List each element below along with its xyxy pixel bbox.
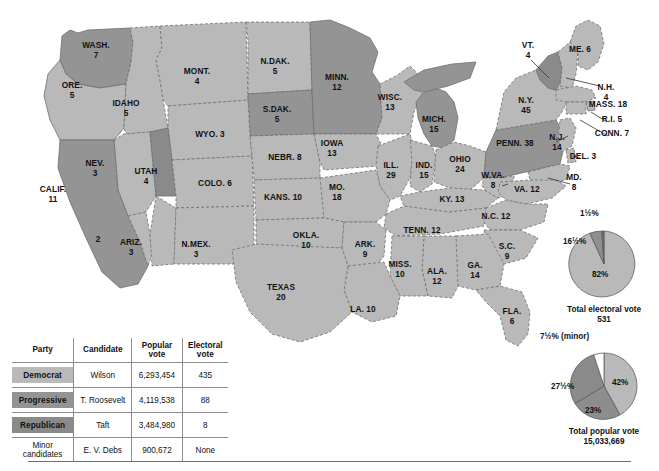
state-name: KANS. 10: [264, 192, 302, 202]
state-label-n-y: N.Y.45: [496, 96, 556, 115]
header-popular-vote: Popularvote: [132, 338, 182, 363]
state-electoral-votes: 15: [419, 170, 428, 180]
state-electoral-votes: 5: [275, 114, 280, 124]
state-electoral-votes: 14: [470, 270, 479, 280]
state-electoral-votes: 12: [332, 82, 341, 92]
state-label-ark: ARK.9: [335, 240, 395, 259]
state-electoral-votes: 5: [273, 66, 278, 76]
state-electoral-votes: 10: [301, 240, 310, 250]
table-row-progressive: Progressive T. Roosevelt 4,119,538 88: [12, 388, 228, 413]
state-name: WISC.: [378, 92, 402, 102]
state-name: CALIF.: [40, 184, 66, 194]
state-electoral-votes: 12: [432, 276, 441, 286]
state-label-fla: FLA.6: [482, 307, 542, 326]
state-label-ga: GA.14: [445, 261, 505, 280]
state-name: DEL. 3: [570, 151, 596, 161]
state-label-mont: MONT.4: [167, 67, 227, 86]
popular-vote-pie-chart: Total popular vote15,033,669: [552, 348, 656, 447]
swatch-label-republican: Republican: [12, 417, 73, 433]
state-name: LA. 10: [350, 304, 376, 314]
state-electoral-votes: 3: [93, 168, 98, 178]
state-label-mich: MICH.15: [404, 115, 464, 134]
table-row-democrat: Democrat Wilson 6,293,454 435: [12, 363, 228, 388]
state-name: S.C.: [499, 241, 516, 251]
legend-label-minor: Minorcandidates: [12, 438, 74, 463]
legend-swatch-republican: Republican: [12, 413, 74, 438]
state-name: IOWA: [321, 138, 344, 148]
electoral-pct-democrat: 82%: [592, 270, 608, 279]
state-electoral-votes: 8: [491, 180, 496, 190]
state-michigan-up: [404, 62, 476, 92]
state-electoral-votes: 14: [552, 142, 561, 152]
cell-popular-wilson: 6,293,454: [132, 363, 182, 388]
state-name: W.VA.: [481, 170, 504, 180]
state-name: N.C. 12: [482, 211, 511, 221]
state-electoral-votes: 3: [194, 249, 199, 259]
state-label-kans-10: KANS. 10: [253, 193, 313, 203]
cell-popular-roosevelt: 4,119,538: [132, 388, 182, 413]
state-name: ALA.: [427, 266, 447, 276]
state-label-conn-7: CONN. 7: [582, 129, 642, 139]
state-label-n-c-12: N.C. 12: [466, 212, 526, 222]
state-name: MONT.: [184, 66, 210, 76]
state-label-calif: CALIF.11: [23, 185, 83, 204]
footer-divider: [28, 461, 631, 462]
state-label-iowa: IOWA13: [302, 139, 362, 158]
state-electoral-votes: 4: [526, 50, 531, 60]
state-name: N.DAK.: [260, 56, 289, 66]
cell-candidate-wilson: Wilson: [74, 363, 132, 388]
popular-pct-progressive: 27½%: [551, 382, 574, 391]
electoral-pct-republican: 1½%: [580, 209, 599, 218]
state-name: MINN.: [325, 72, 349, 82]
state-label-mo: MO.18: [307, 183, 367, 202]
header-electoral-vote: Electoralvote: [182, 338, 228, 363]
cell-electoral-taft: 8: [182, 413, 228, 438]
state-name: VT.: [522, 40, 534, 50]
state-name: ME. 6: [569, 44, 591, 54]
state-label-minn: MINN.12: [307, 73, 367, 92]
state-name: MD.: [566, 172, 582, 182]
state-electoral-votes: 20: [276, 292, 285, 302]
popular-pct-minor: 7½% (minor): [540, 332, 589, 341]
state-electoral-votes: 4: [195, 76, 200, 86]
state-name: WYO. 3: [195, 129, 225, 139]
swatch-label-progressive: Progressive: [12, 392, 73, 408]
cell-popular-taft: 3,484,980: [132, 413, 182, 438]
state-electoral-votes: 13: [327, 148, 336, 158]
state-electoral-votes: 13: [385, 102, 394, 112]
popular-pct-republican: 23%: [585, 406, 601, 415]
state-label-n-j: N.J.14: [527, 133, 587, 152]
state-name: MICH.: [422, 114, 446, 124]
state-label-me-6: ME. 6: [550, 45, 610, 55]
state-label-vt: VT.4: [498, 41, 558, 60]
cell-electoral-debs: None: [182, 438, 228, 463]
state-label-colo-6: COLO. 6: [185, 179, 245, 189]
table-row-minor: Minorcandidates E. V. Debs 900,672 None: [12, 438, 228, 463]
cell-candidate-debs: E. V. Debs: [74, 438, 132, 463]
popular-pct-democrat: 42%: [612, 378, 628, 387]
state-electoral-votes: 9: [363, 249, 368, 259]
state-label-ky-13: KY. 13: [422, 195, 482, 205]
state-label-utah: UTAH4: [116, 167, 176, 186]
state-electoral-votes: 4: [144, 176, 149, 186]
state-name: KY. 13: [439, 194, 464, 204]
state-label-okla: OKLA.10: [276, 231, 336, 250]
state-name: OKLA.: [293, 230, 319, 240]
state-name: GA.: [467, 260, 482, 270]
state-name: N.H.: [598, 82, 615, 92]
results-table: Party Candidate Popularvote Electoralvot…: [12, 338, 228, 462]
state-electoral-votes: 18: [332, 192, 341, 202]
popular-pie-caption: Total popular vote15,033,669: [552, 427, 656, 447]
state-electoral-votes: 7: [94, 50, 99, 60]
state-name: FLA.: [503, 306, 522, 316]
state-name: R.I. 5: [602, 114, 622, 124]
state-name: N.Y.: [518, 95, 534, 105]
state-label-n-mex: N.MEX.3: [166, 240, 226, 259]
cell-electoral-wilson: 435: [182, 363, 228, 388]
state-label-wyo-3: WYO. 3: [180, 130, 240, 140]
state-label-tenn-12: TENN. 12: [392, 226, 452, 236]
state-label-del-3: DEL. 3: [553, 152, 613, 162]
table-row-republican: Republican Taft 3,484,980 8: [12, 413, 228, 438]
state-name: TENN. 12: [403, 225, 440, 235]
swatch-label-democrat: Democrat: [12, 367, 73, 383]
